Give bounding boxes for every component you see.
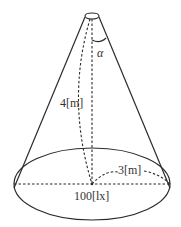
light-source-ellipse: [85, 13, 99, 19]
angle-arc: [92, 38, 106, 42]
angle-label: α: [97, 47, 103, 59]
height-label: 4[m]: [60, 97, 83, 109]
center-point: [91, 183, 94, 186]
illuminance-label: 100[lx]: [74, 190, 109, 202]
radius-dashed-curve: [92, 172, 118, 184]
radius-label: 3[m]: [118, 164, 141, 176]
